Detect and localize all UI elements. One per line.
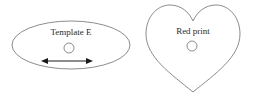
shape-ellipse-template: Template E (12, 21, 130, 69)
diagram-canvas: Template E Red print (0, 0, 254, 99)
heart-center-hole-icon (187, 41, 197, 51)
ellipse-center-hole-icon (64, 43, 74, 53)
heart-shape-label: Red print (176, 26, 210, 36)
shape-heart-red-print: Red print (146, 5, 240, 92)
ellipse-shape-label: Template E (50, 27, 92, 37)
shapes-illustration: Template E Red print (0, 0, 254, 99)
double-headed-arrow-icon (41, 58, 93, 64)
